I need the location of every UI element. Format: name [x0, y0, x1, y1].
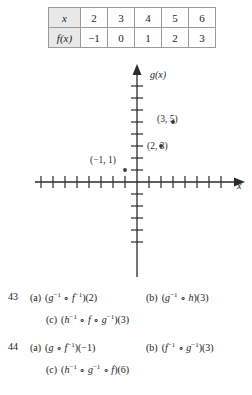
x-axis-label: x [237, 180, 241, 191]
exercise-43-part-c-tag: (c) [46, 314, 57, 325]
exercise-43-part-c[interactable]: (c)(h−1 ∘ f ∘ g−1)(3) [46, 313, 129, 325]
table-cell-x-0: 2 [81, 8, 108, 28]
table-row-fx: f(x) −1 0 1 2 3 [49, 28, 216, 48]
exercise-43-part-c-expression: (h−1 ∘ f ∘ g−1)(3) [61, 314, 129, 325]
exercise-43-number: 43 [8, 291, 18, 302]
exercise-43-row-1: 43 (a)(g−1 ∘ f−1)(2) (b)(g−1 ∘ h)(3) [0, 288, 252, 310]
exercise-list: 43 (a)(g−1 ∘ f−1)(2) (b)(g−1 ∘ h)(3) (c)… [0, 288, 252, 388]
exercise-44-part-c-tag: (c) [46, 364, 57, 375]
exercise-43-part-a-expression: (g−1 ∘ f−1)(2) [45, 292, 97, 303]
table-header-x: x [49, 8, 81, 28]
graph-svg [0, 62, 252, 277]
data-point-label-neg1-1: (−1, 1) [90, 155, 116, 165]
table-row-x: x 2 3 4 5 6 [49, 8, 216, 28]
exercise-44-part-a-tag: (a) [30, 342, 41, 353]
function-value-table: x 2 3 4 5 6 f(x) −1 0 1 2 3 [48, 7, 216, 48]
table-cell-fx-3: 2 [162, 28, 189, 48]
table-cell-fx-2: 1 [135, 28, 162, 48]
exercise-43-row-2: (c)(h−1 ∘ f ∘ g−1)(3) [0, 310, 252, 332]
exercise-44-part-b-tag: (b) [146, 342, 158, 353]
exercise-44-part-c-expression: (h−1 ∘ g−1 ∘ f)(6) [61, 364, 129, 375]
table-cell-fx-0: −1 [81, 28, 108, 48]
exercise-44-part-a-expression: (g ∘ f−1)(−1) [45, 342, 95, 353]
exercise-44-row-1: 44 (a)(g ∘ f−1)(−1) (b)(f−1 ∘ g−1)(3) [0, 338, 252, 360]
exercise-44-row-2: (c)(h−1 ∘ g−1 ∘ f)(6) [0, 360, 252, 382]
y-axis-arrow-icon [133, 64, 142, 75]
data-point-label-2-3: (2, 3) [147, 141, 168, 151]
exercise-43-part-a[interactable]: (a)(g−1 ∘ f−1)(2) [30, 291, 97, 303]
exercise-43: 43 (a)(g−1 ∘ f−1)(2) (b)(g−1 ∘ h)(3) (c)… [0, 288, 252, 332]
exercise-44-part-b[interactable]: (b)(f−1 ∘ g−1)(3) [146, 341, 214, 353]
exercise-44: 44 (a)(g ∘ f−1)(−1) (b)(f−1 ∘ g−1)(3) (c… [0, 338, 252, 382]
table-cell-x-3: 5 [162, 8, 189, 28]
table-cell-fx-4: 3 [189, 28, 216, 48]
exercise-43-part-b-tag: (b) [146, 292, 158, 303]
data-point-label-3-5: (3, 5) [157, 114, 178, 124]
exercise-43-part-b[interactable]: (b)(g−1 ∘ h)(3) [146, 291, 208, 303]
coordinate-graph: (3, 5) (2, 3) (−1, 1) g(x) x [0, 62, 252, 277]
y-axis-label: g(x) [150, 69, 166, 80]
table-cell-x-4: 6 [189, 8, 216, 28]
exercise-43-part-b-expression: (g−1 ∘ h)(3) [162, 292, 209, 303]
exercise-44-part-a[interactable]: (a)(g ∘ f−1)(−1) [30, 341, 95, 353]
exercise-44-number: 44 [8, 341, 18, 352]
exercise-44-part-b-expression: (f−1 ∘ g−1)(3) [162, 342, 214, 353]
exercise-44-part-c[interactable]: (c)(h−1 ∘ g−1 ∘ f)(6) [46, 363, 129, 375]
table-cell-fx-1: 0 [108, 28, 135, 48]
table-cell-x-1: 3 [108, 8, 135, 28]
table-header-fx: f(x) [49, 28, 81, 48]
data-point-neg1-1 [123, 168, 127, 172]
table-cell-x-2: 4 [135, 8, 162, 28]
exercise-43-part-a-tag: (a) [30, 292, 41, 303]
